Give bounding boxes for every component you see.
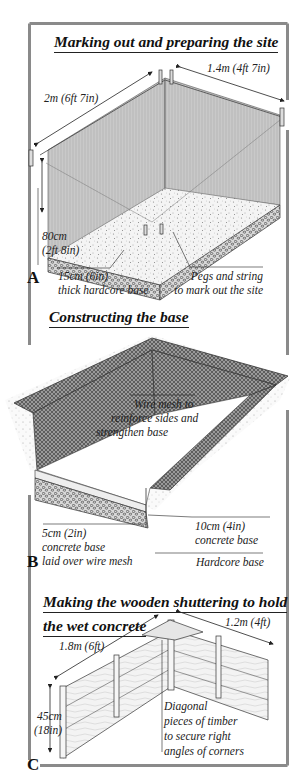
hardcore-base-label-b: Hardcore base (196, 556, 264, 569)
diagonal-label-line1: Diagonal (164, 700, 207, 713)
thick-concrete-line1: 10cm (4in) (195, 520, 245, 533)
section-c-letter: C (27, 756, 39, 774)
thin-concrete-line2: concrete base (42, 541, 105, 554)
thin-concrete-line3: laid over wire mesh (42, 555, 133, 568)
section-a-letter: A (27, 269, 39, 287)
depth-cm-label: 80cm (42, 230, 67, 243)
height-cm-label: 45cm (37, 710, 62, 723)
section-b-title: Constructing the base (49, 308, 189, 328)
hardcore-thickness-label: 15cm (6in) (58, 270, 108, 283)
diagonal-label-line2: pieces of timber (164, 715, 237, 728)
height-imperial-label: (18in) (34, 724, 62, 737)
diagram-illustration (0, 0, 301, 776)
section-b-letter: B (27, 553, 38, 571)
thin-concrete-line1: 5cm (2in) (42, 527, 86, 540)
base-drawing (5, 335, 290, 553)
length-label: 1.4m (4ft 7in) (207, 62, 270, 75)
hardcore-base-label: thick hardcore base (58, 284, 148, 297)
section-c-title-line2: the wet concrete (43, 617, 146, 637)
short-side-label: 1.2m (4ft) (225, 616, 270, 629)
thick-concrete-line2: concrete base (195, 534, 258, 547)
mesh-label-line2: reinforce sides and (111, 412, 198, 425)
pegs-label-line1: Pegs and string (191, 270, 263, 283)
width-label: 2m (6ft 7in) (44, 92, 98, 105)
section-c-title-line1: Making the wooden shuttering to hold (43, 593, 287, 613)
diagonal-label-line4: angles of corners (164, 745, 244, 758)
diagonal-label-line3: to secure right (164, 730, 231, 743)
mesh-label-line3: strengthen base (96, 426, 168, 439)
long-side-label: 1.8m (6ft) (59, 640, 104, 653)
depth-imperial-label: (2ft 8in) (42, 244, 79, 257)
pegs-label-line2: to mark out the site (174, 284, 263, 297)
mesh-label-line1: Wire mesh to (134, 398, 194, 411)
section-a-title: Marking out and preparing the site (54, 33, 278, 53)
